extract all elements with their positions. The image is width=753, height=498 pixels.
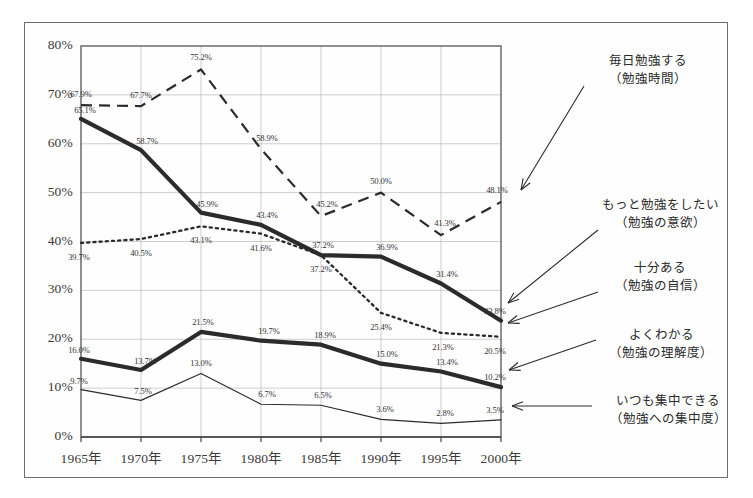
data-point-label: 2.8%	[436, 408, 454, 418]
data-point-label: 45.2%	[316, 199, 338, 209]
x-axis-tick-label: 1970年	[108, 447, 174, 467]
data-point-label: 6.5%	[314, 390, 332, 400]
series-callout-2: 十分ある（勉強の自信）	[615, 259, 706, 295]
series-callout-0: 毎日勉強する（勉強時間）	[609, 52, 687, 88]
data-point-label: 58.9%	[256, 133, 278, 143]
data-point-label: 21.5%	[192, 317, 214, 327]
data-point-label: 48.1%	[486, 185, 508, 195]
x-axis-tick-label: 1995年	[408, 447, 474, 467]
data-point-label: 19.7%	[258, 326, 280, 336]
callout-title: 十分ある	[634, 260, 686, 275]
data-point-label: 50.0%	[370, 176, 392, 186]
data-point-label: 13.7%	[134, 356, 156, 366]
data-point-label: 7.5%	[134, 386, 152, 396]
data-point-label: 21.3%	[432, 342, 454, 352]
series-callout-1: もっと勉強をしたい（勉強の意欲）	[602, 196, 719, 232]
y-axis-tick-label: 80%	[27, 37, 73, 53]
data-point-label: 58.7%	[136, 136, 158, 146]
callout-title: よくわかる	[629, 327, 694, 342]
data-point-label: 3.6%	[376, 404, 394, 414]
y-axis-tick-label: 20%	[27, 330, 73, 346]
data-point-label: 9.7%	[70, 376, 88, 386]
data-point-label: 3.5%	[486, 405, 504, 415]
data-point-label: 43.1%	[190, 235, 212, 245]
data-point-label: 36.9%	[376, 242, 398, 252]
callout-title: 毎日勉強する	[609, 53, 687, 68]
y-axis-tick-label: 30%	[27, 281, 73, 297]
data-point-label: 15.0%	[376, 349, 398, 359]
data-point-label: 23.8%	[484, 306, 506, 316]
data-point-label: 6.7%	[258, 389, 276, 399]
data-point-label: 43.4%	[256, 210, 278, 220]
data-point-label: 20.5%	[484, 346, 506, 356]
data-point-label: 39.7%	[68, 252, 90, 262]
callout-subtitle: （勉強の意欲）	[602, 214, 719, 232]
y-axis-tick-label: 40%	[27, 233, 73, 249]
data-point-label: 45.9%	[196, 199, 218, 209]
data-point-label: 31.4%	[436, 269, 458, 279]
y-axis-tick-label: 10%	[27, 379, 73, 395]
callout-subtitle: （勉強への集中度）	[610, 410, 727, 428]
data-point-label: 41.6%	[250, 243, 272, 253]
data-point-label: 67.9%	[70, 89, 92, 99]
data-point-label: 40.5%	[130, 248, 152, 258]
data-point-label: 75.2%	[190, 52, 212, 62]
y-axis-tick-label: 50%	[27, 184, 73, 200]
data-point-label: 65.1%	[74, 105, 96, 115]
data-point-label: 67.7%	[130, 90, 152, 100]
data-point-label: 13.0%	[190, 358, 212, 368]
x-axis-tick-label: 1985年	[288, 447, 354, 467]
x-axis-tick-label: 1990年	[348, 447, 414, 467]
x-axis-tick-label: 1975年	[168, 447, 234, 467]
data-point-label: 16.0%	[68, 345, 90, 355]
data-point-label: 37.2%	[312, 240, 334, 250]
y-axis-tick-label: 0%	[27, 428, 73, 444]
callout-title: いつも集中できる	[616, 393, 720, 408]
callout-title: もっと勉強をしたい	[602, 197, 719, 212]
callout-subtitle: （勉強の自信）	[615, 277, 706, 295]
callout-subtitle: （勉強時間）	[609, 70, 687, 88]
x-axis-tick-label: 1980年	[228, 447, 294, 467]
series-callout-3: よくわかる（勉強の理解度）	[609, 326, 713, 362]
data-point-label: 37.2%	[310, 264, 332, 274]
callout-subtitle: （勉強の理解度）	[609, 344, 713, 362]
y-axis-tick-label: 70%	[27, 86, 73, 102]
x-axis-tick-label: 2000年	[468, 447, 534, 467]
y-axis-tick-label: 60%	[27, 135, 73, 151]
series-callout-4: いつも集中できる（勉強への集中度）	[610, 392, 727, 428]
data-point-label: 18.9%	[314, 330, 336, 340]
chart-figure: 0%10%20%30%40%50%60%70%80% 1965年1970年197…	[0, 0, 753, 498]
x-axis-tick-label: 1965年	[48, 447, 114, 467]
data-point-label: 25.4%	[370, 322, 392, 332]
data-point-label: 13.4%	[436, 357, 458, 367]
data-point-label: 41.3%	[434, 218, 456, 228]
data-point-label: 10.2%	[484, 372, 506, 382]
